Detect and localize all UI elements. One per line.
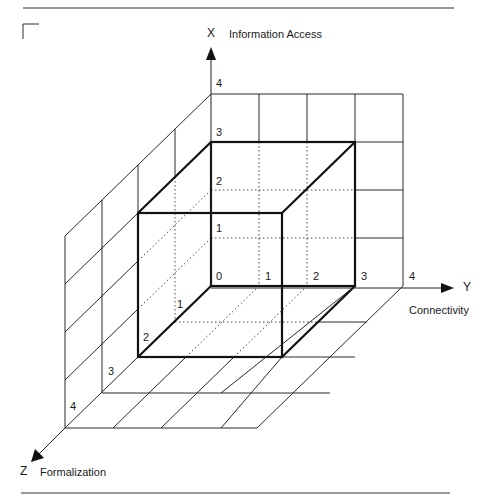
y-tick: 2 bbox=[313, 271, 319, 282]
x-axis-letter: X bbox=[207, 28, 215, 39]
y-tick: 4 bbox=[409, 271, 415, 282]
x-tick: 4 bbox=[216, 78, 222, 89]
x-tick: 2 bbox=[216, 176, 222, 187]
z-tick: 4 bbox=[70, 401, 76, 412]
z-axis-letter: Z bbox=[20, 466, 27, 477]
x-tick: 3 bbox=[216, 127, 222, 138]
z-tick: 1 bbox=[177, 299, 183, 310]
y-axis bbox=[211, 283, 454, 293]
z-tick: 3 bbox=[108, 366, 114, 377]
z-axis-name: Formalization bbox=[40, 467, 106, 478]
y-tick: 1 bbox=[265, 271, 271, 282]
y-tick: 3 bbox=[361, 271, 367, 282]
x-axis-name: Information Access bbox=[229, 29, 322, 40]
y-axis-name: Connectivity bbox=[409, 305, 469, 316]
3d-grid-diagram bbox=[0, 0, 492, 497]
x-axis bbox=[206, 47, 216, 286]
corner-mark bbox=[23, 24, 39, 39]
z-tick: 2 bbox=[143, 332, 149, 343]
y-axis-letter: Y bbox=[463, 282, 471, 293]
highlighted-box bbox=[138, 142, 355, 357]
z-axis bbox=[31, 428, 65, 462]
x-tick: 1 bbox=[216, 223, 222, 234]
x-tick: 0 bbox=[216, 271, 222, 282]
